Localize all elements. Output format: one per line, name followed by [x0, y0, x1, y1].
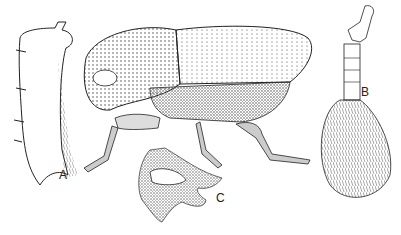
label-c: C	[216, 191, 225, 205]
panel-b-antenna	[321, 6, 391, 198]
beetle-body	[84, 26, 312, 172]
beetle-illustration	[0, 0, 401, 235]
label-a: A	[59, 168, 67, 182]
panel-a-leg	[14, 22, 78, 185]
label-b: B	[361, 85, 369, 99]
figure: A B C	[0, 0, 401, 235]
